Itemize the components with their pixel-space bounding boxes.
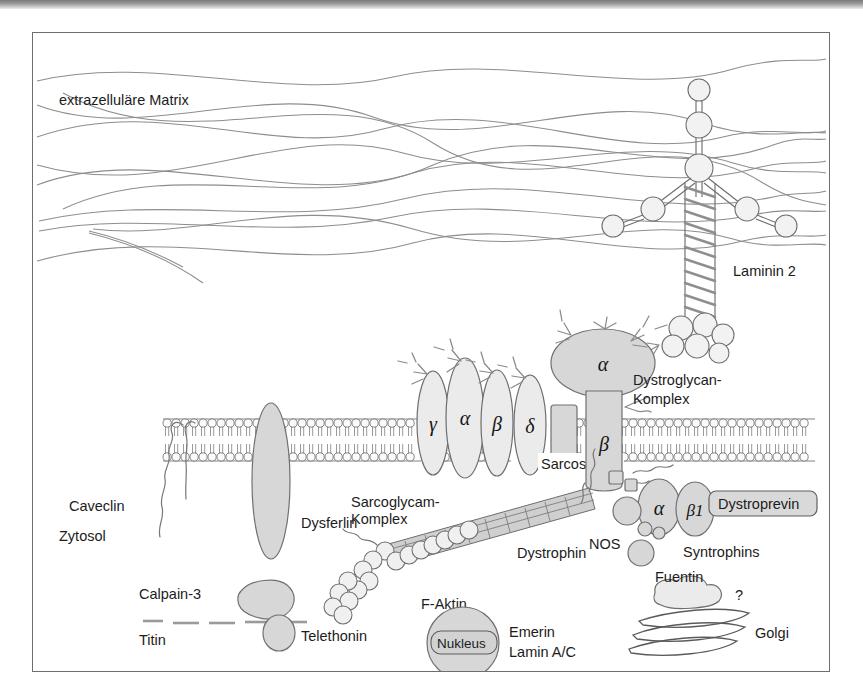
sarcoglycan-gamma-label: γ — [429, 413, 438, 436]
label-cytosol: Zytosol — [59, 528, 106, 544]
figure-frame: extrazelluläre Matrix — [32, 32, 830, 672]
label-telethonin: Telethonin — [301, 628, 367, 644]
label-dystrophin: Dystrophin — [517, 545, 586, 561]
dystroglycan-alpha-label: α — [598, 353, 609, 375]
label-sarcoglycan-complex-line1: Sarcoglycam- — [351, 494, 440, 510]
label-dystrobrevin: Dystroprevin — [718, 496, 799, 512]
label-golgi: Golgi — [755, 625, 789, 641]
label-dystroglycan-complex-line1: Dystroglycan- — [633, 372, 722, 388]
label-dysferlin: Dysferlin — [301, 515, 357, 531]
label-nucleus: Nukleus — [437, 636, 486, 651]
diagram-canvas: extrazelluläre Matrix — [33, 33, 829, 671]
sarcoglycan-beta-label: β — [491, 413, 502, 436]
scan-artifact-bar — [0, 0, 863, 9]
telethonin-protein — [263, 615, 295, 651]
label-sarcoglycan-complex-line2: Komplex — [351, 511, 408, 527]
calpain-3-protein — [238, 580, 294, 619]
label-laminin-2: Laminin 2 — [733, 263, 796, 279]
label-emerin: Emerin — [509, 624, 555, 640]
label-syntrophins: Syntrophins — [683, 544, 760, 560]
syntrophin-alpha-label: α — [654, 497, 665, 519]
syntrophin-beta1-label: β1 — [686, 501, 704, 520]
label-caveolin: Caveclin — [69, 498, 125, 514]
sarcoglycan-complex: γ α β δ — [398, 339, 546, 478]
label-question-mark: ? — [735, 587, 743, 603]
label-dystroglycan-complex-line2: Komplex — [633, 391, 690, 407]
golgi-apparatus — [629, 609, 749, 655]
membrane-segment-left — [163, 419, 421, 461]
sarcoglycan-alpha-label: α — [460, 407, 471, 429]
cell-membrane-diagram: extrazelluläre Matrix — [33, 33, 829, 671]
dysferlin-protein — [252, 403, 290, 559]
nucleus-organelle: Nukleus — [427, 607, 499, 671]
label-titin: Titin — [139, 632, 166, 648]
sarcoglycan-delta-label: δ — [525, 415, 535, 437]
label-nos: NOS — [589, 536, 620, 552]
dystroglycan-beta-label: β — [598, 433, 609, 456]
dystrobrevin-badge: Dystroprevin — [709, 491, 817, 516]
label-extracellular-matrix: extrazelluläre Matrix — [59, 92, 189, 108]
label-calpain-3: Calpain-3 — [139, 586, 201, 602]
caveolin-protein — [159, 422, 195, 537]
label-fuentin: Fuentin — [655, 569, 703, 585]
label-lamin-ac: Lamin A/C — [509, 644, 576, 660]
